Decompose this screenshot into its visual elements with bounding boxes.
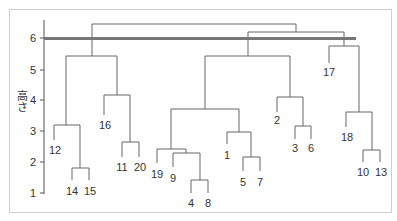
branch-11-20 [122,142,139,157]
leaf-label: 3 [292,142,298,154]
branch-14-15 [72,168,89,180]
branch-17 [329,46,359,112]
leaf-label: 16 [99,119,111,131]
leaf-labels: 1214151611201994815723617181013 [49,66,387,209]
branch-left-cluster [66,56,117,125]
branch-mid-left [171,109,239,149]
leaf-label: 7 [257,176,263,188]
branch-10-13 [363,150,380,162]
leaf-label: 9 [170,172,176,184]
dendrogram-plot: 654321 1214151611201994815723617181013 [0,0,397,221]
y-tick-label: 3 [30,125,36,137]
y-axis-ticks: 654321 [30,32,44,199]
leaf-label: 18 [341,131,353,143]
branch-3-6 [295,126,311,139]
branch-5-7 [243,157,260,171]
leaf-label: 2 [274,114,280,126]
branch-second [248,32,344,56]
leaf-label: 6 [308,142,314,154]
leaf-label: 4 [188,197,194,209]
branch-1 [227,132,251,157]
leaf-label: 5 [240,176,246,188]
leaf-label: 20 [134,161,146,173]
leaf-label: 1 [224,149,230,161]
leaf-label: 17 [323,66,335,78]
leaf-label: 11 [116,161,127,173]
leaf-label: 13 [375,166,387,178]
branch-4-8 [191,180,208,193]
leaf-label: 12 [49,144,61,156]
branch-19 [157,149,186,163]
leaf-label: 19 [151,168,163,180]
y-tick-label: 6 [30,32,36,44]
y-tick-label: 2 [30,156,36,168]
y-tick-label: 5 [30,64,36,76]
y-tick-label: 1 [30,187,36,199]
leaf-label: 10 [357,166,369,178]
branch-2 [277,97,303,126]
y-tick-label: 4 [30,94,36,106]
leaf-label: 14 [66,185,78,197]
dendrogram-branches [54,24,380,193]
leaf-label: 15 [84,185,96,197]
leaf-label: 8 [205,197,211,209]
branch-9 [173,153,200,180]
